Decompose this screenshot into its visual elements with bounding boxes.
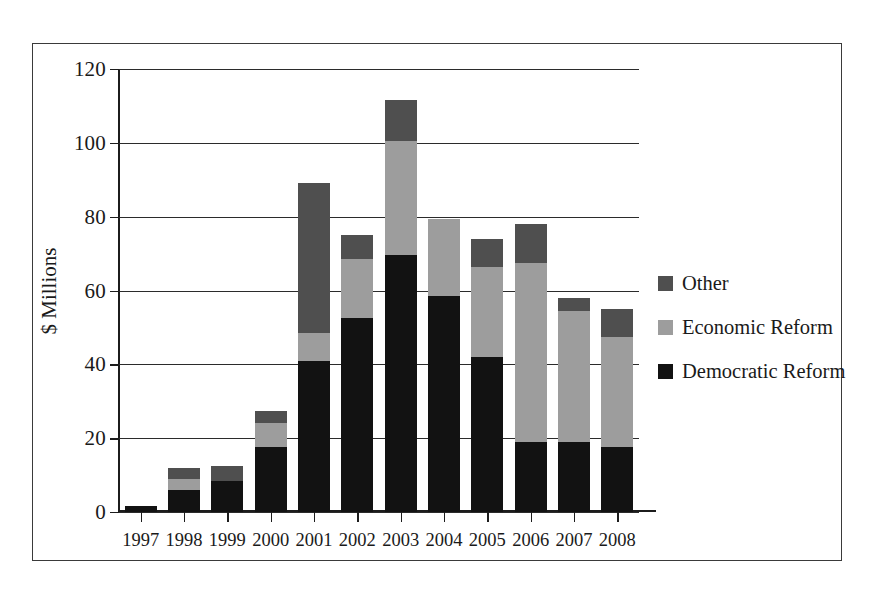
- x-axis-tick: [184, 512, 185, 522]
- bar-segment-other[interactable]: [211, 466, 243, 481]
- bar-stack[interactable]: [168, 468, 200, 512]
- y-axis-tick-label: 60: [85, 278, 106, 303]
- bar-segment-other[interactable]: [255, 411, 287, 424]
- bar-stack[interactable]: [558, 298, 590, 512]
- bar-segment-democratic-reform[interactable]: [168, 490, 200, 512]
- bar-segment-economic-reform[interactable]: [298, 333, 330, 361]
- x-axis-tick-label: 2008: [599, 530, 636, 551]
- x-axis-tick: [444, 512, 445, 522]
- y-axis-tick-label: 0: [95, 500, 106, 525]
- bar-segment-other[interactable]: [341, 235, 373, 259]
- bar-segment-other[interactable]: [168, 468, 200, 479]
- bar-segment-democratic-reform[interactable]: [558, 442, 590, 512]
- x-axis-tick: [141, 512, 142, 522]
- x-axis-tick-label: 2003: [382, 530, 419, 551]
- legend-item[interactable]: Other: [658, 272, 838, 295]
- bar-stack[interactable]: [211, 466, 243, 512]
- bar-stack[interactable]: [471, 239, 503, 512]
- bar-segment-other[interactable]: [471, 239, 503, 267]
- plot-area: $ Millions 020406080100120 1997199819992…: [119, 69, 639, 512]
- y-axis-tick: [110, 291, 119, 292]
- y-axis-tick-label: 40: [85, 352, 106, 377]
- x-axis-tick: [617, 512, 618, 522]
- bar-segment-democratic-reform[interactable]: [515, 442, 547, 512]
- bar-stack[interactable]: [428, 219, 460, 512]
- y-axis-tick: [110, 438, 119, 439]
- y-axis-tick-label: 20: [85, 426, 106, 451]
- legend-label: Democratic Reform: [682, 360, 845, 383]
- bar-segment-economic-reform[interactable]: [168, 479, 200, 490]
- bar-segment-economic-reform[interactable]: [428, 219, 460, 297]
- bar-segment-democratic-reform[interactable]: [428, 296, 460, 512]
- y-axis-tick-label: 100: [74, 130, 106, 155]
- legend-swatch-icon: [658, 364, 673, 379]
- legend-label: Other: [682, 272, 729, 295]
- x-axis-tick-label: 2005: [469, 530, 506, 551]
- bar-segment-economic-reform[interactable]: [341, 259, 373, 318]
- x-axis-tick: [401, 512, 402, 522]
- bar-segment-democratic-reform[interactable]: [471, 357, 503, 512]
- legend-swatch-icon: [658, 276, 673, 291]
- bar-stack[interactable]: [341, 235, 373, 512]
- bar-segment-economic-reform[interactable]: [471, 267, 503, 357]
- bar-segment-democratic-reform[interactable]: [341, 318, 373, 512]
- bar-segment-economic-reform[interactable]: [515, 263, 547, 442]
- x-axis-tick-label: 2006: [512, 530, 549, 551]
- bar-segment-democratic-reform[interactable]: [385, 255, 417, 512]
- x-axis-tick: [574, 512, 575, 522]
- x-axis-tick: [314, 512, 315, 522]
- y-axis-tick: [110, 217, 119, 218]
- bar-segment-democratic-reform[interactable]: [298, 361, 330, 512]
- bar-segment-economic-reform[interactable]: [601, 337, 633, 448]
- x-axis-tick-label: 1997: [122, 530, 159, 551]
- bar-stack[interactable]: [515, 224, 547, 512]
- bar-segment-economic-reform[interactable]: [385, 141, 417, 255]
- chart-legend: OtherEconomic ReformDemocratic Reform: [658, 272, 838, 404]
- bar-stack[interactable]: [298, 183, 330, 512]
- legend-label: Economic Reform: [682, 316, 833, 339]
- x-axis-tick-label: 2000: [252, 530, 289, 551]
- bar-segment-other[interactable]: [515, 224, 547, 263]
- x-axis-tick-label: 2002: [339, 530, 376, 551]
- legend-item[interactable]: Economic Reform: [658, 316, 838, 339]
- bar-segment-democratic-reform[interactable]: [211, 481, 243, 512]
- y-axis-tick: [110, 69, 119, 70]
- bar-segment-economic-reform[interactable]: [558, 311, 590, 442]
- y-axis-title: $ Millions: [37, 247, 62, 334]
- bar-segment-other[interactable]: [298, 183, 330, 333]
- x-axis-tick: [271, 512, 272, 522]
- bar-segment-other[interactable]: [601, 309, 633, 337]
- x-axis-tick: [357, 512, 358, 522]
- legend-item[interactable]: Democratic Reform: [658, 360, 838, 383]
- y-axis-tick-label: 120: [74, 57, 106, 82]
- bar-stack[interactable]: [255, 410, 287, 512]
- legend-swatch-icon: [658, 320, 673, 335]
- gridline: [119, 512, 639, 513]
- x-axis-tick: [531, 512, 532, 522]
- bar-series-container: 1997199819992000200120022003200420052006…: [119, 69, 639, 512]
- x-axis-tick-label: 1999: [209, 530, 246, 551]
- bar-segment-democratic-reform[interactable]: [255, 447, 287, 512]
- bar-segment-democratic-reform[interactable]: [601, 447, 633, 512]
- x-axis-tick-label: 1998: [166, 530, 203, 551]
- y-axis-tick-label: 80: [85, 204, 106, 229]
- x-axis-tick-label: 2007: [556, 530, 593, 551]
- bar-stack[interactable]: [601, 309, 633, 512]
- chart-figure: $ Millions 020406080100120 1997199819992…: [32, 43, 842, 561]
- y-axis-tick: [110, 143, 119, 144]
- bar-segment-other[interactable]: [385, 100, 417, 141]
- y-axis-tick: [110, 512, 119, 513]
- bar-segment-other[interactable]: [558, 298, 590, 311]
- x-axis-tick: [227, 512, 228, 522]
- x-axis-tick-label: 2004: [426, 530, 463, 551]
- x-axis-tick: [487, 512, 488, 522]
- x-axis-tick-label: 2001: [296, 530, 333, 551]
- bar-segment-economic-reform[interactable]: [255, 423, 287, 447]
- y-axis-tick: [110, 364, 119, 365]
- bar-stack[interactable]: [385, 100, 417, 512]
